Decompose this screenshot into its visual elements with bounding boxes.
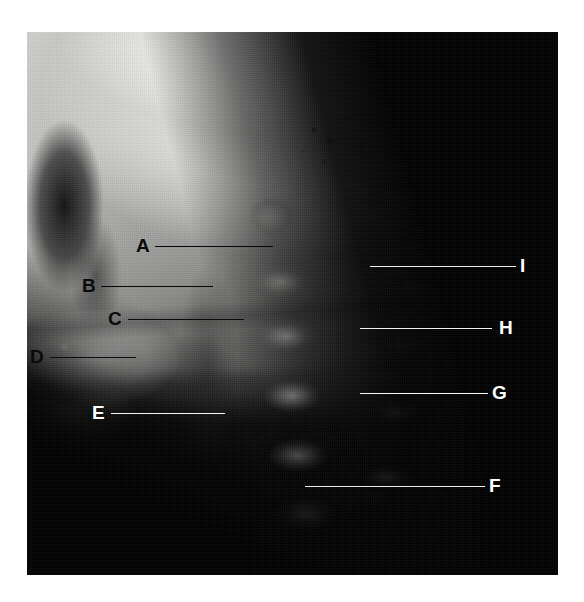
- callout-label-i: I: [520, 256, 525, 275]
- cervical-spine-xray-image: [27, 32, 558, 575]
- radiograph-figure: ABCDEFGHI: [0, 0, 584, 602]
- leader-line-b: [101, 286, 213, 287]
- callout-label-a: A: [136, 236, 150, 255]
- callout-label-b: B: [82, 276, 96, 295]
- leader-line-f: [305, 486, 485, 487]
- callout-label-f: F: [489, 476, 501, 495]
- callout-label-d: D: [30, 347, 44, 366]
- xray-lower-left-shadow-layer: [27, 32, 558, 575]
- leader-line-h: [360, 328, 492, 329]
- callout-label-g: G: [492, 383, 507, 402]
- leader-line-c: [128, 319, 244, 320]
- leader-line-d: [50, 357, 136, 358]
- leader-line-e: [111, 413, 225, 414]
- callout-label-e: E: [92, 403, 105, 422]
- leader-line-a: [155, 246, 273, 247]
- callout-label-h: H: [499, 318, 513, 337]
- leader-line-g: [360, 393, 488, 394]
- callout-label-c: C: [108, 309, 122, 328]
- leader-line-i: [370, 266, 516, 267]
